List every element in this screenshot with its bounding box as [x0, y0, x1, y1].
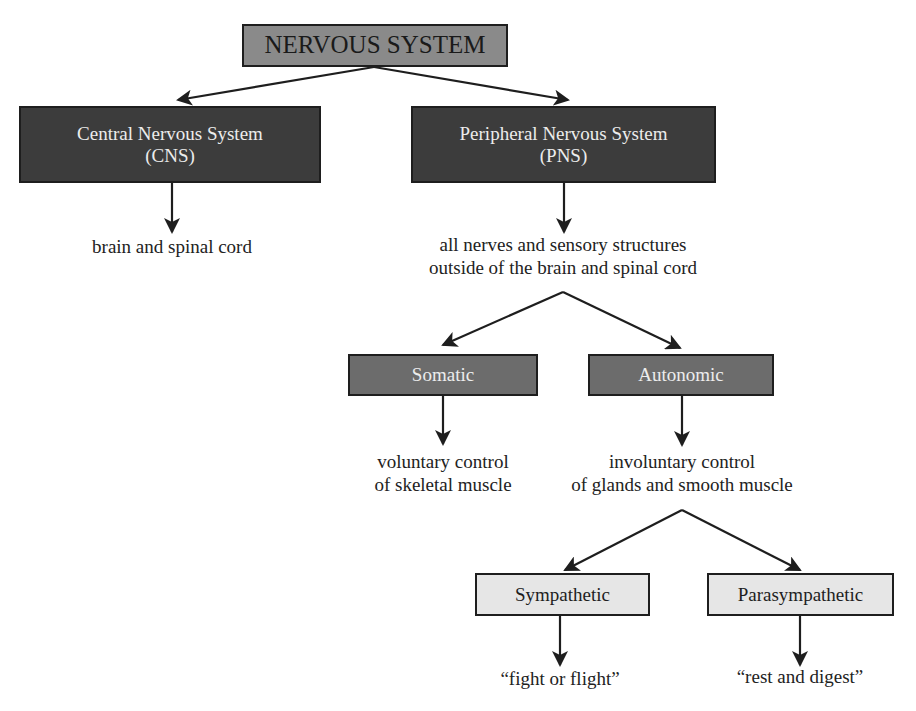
sympathetic-description: “fight or flight” — [480, 668, 640, 691]
node-label: Parasympathetic — [738, 584, 864, 606]
arrow-pns-to-autonomic — [563, 292, 680, 348]
arrow-root-to-pns — [374, 67, 568, 100]
arrow-root-to-cns — [178, 67, 374, 100]
arrow-autonomic-to-parasympathetic — [682, 510, 800, 570]
node-label: NERVOUS SYSTEM — [265, 31, 486, 60]
node-sympathetic: Sympathetic — [475, 573, 650, 616]
node-label: Somatic — [412, 364, 474, 386]
somatic-description: voluntary control of skeletal muscle — [353, 451, 533, 497]
arrow-autonomic-to-sympathetic — [565, 510, 682, 570]
node-nervous-system: NERVOUS SYSTEM — [242, 24, 508, 67]
somatic-description-line1: voluntary control — [353, 451, 533, 474]
pns-description: all nerves and sensory structures outsid… — [393, 234, 733, 280]
autonomic-description-line2: of glands and smooth muscle — [552, 474, 812, 497]
pns-description-line2: outside of the brain and spinal cord — [393, 257, 733, 280]
node-label: Sympathetic — [515, 584, 610, 606]
pns-description-line1: all nerves and sensory structures — [393, 234, 733, 257]
somatic-description-line2: of skeletal muscle — [353, 474, 533, 497]
node-label-line1: Peripheral Nervous System — [460, 123, 668, 145]
parasympathetic-description: “rest and digest” — [715, 666, 885, 689]
arrow-pns-to-somatic — [443, 292, 563, 345]
node-peripheral-nervous-system: Peripheral Nervous System (PNS) — [411, 106, 716, 183]
node-label-line1: Central Nervous System — [77, 123, 263, 145]
node-label: Autonomic — [638, 364, 724, 386]
cns-description: brain and spinal cord — [72, 236, 272, 259]
autonomic-description: involuntary control of glands and smooth… — [552, 451, 812, 497]
autonomic-description-line1: involuntary control — [552, 451, 812, 474]
node-central-nervous-system: Central Nervous System (CNS) — [19, 106, 321, 183]
node-somatic: Somatic — [348, 354, 538, 396]
node-parasympathetic: Parasympathetic — [707, 573, 894, 616]
node-label-line2: (CNS) — [145, 145, 195, 167]
node-autonomic: Autonomic — [588, 354, 774, 396]
node-label-line2: (PNS) — [540, 145, 588, 167]
